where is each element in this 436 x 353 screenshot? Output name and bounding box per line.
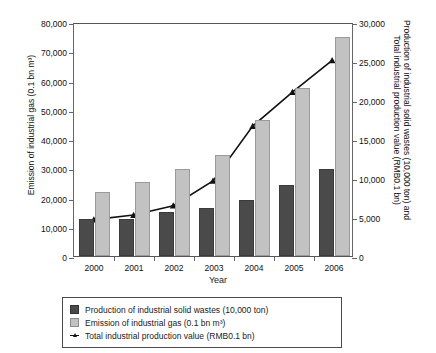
dark-square-swatch-icon (70, 305, 79, 314)
x-axis-tick-label: 2005 (285, 263, 304, 273)
bar-solid-wastes (199, 208, 214, 256)
y-axis-right-tick-label: 15,000 (359, 136, 385, 146)
x-axis-tick (274, 256, 275, 261)
y-axis-left-tick (69, 83, 74, 84)
y-axis-left-tick-label: 20,000 (41, 195, 67, 205)
bar-solid-wastes (79, 219, 94, 256)
y-axis-right-tick (352, 102, 357, 103)
y-axis-right-tick (352, 258, 357, 259)
bar-industrial-gas (95, 192, 110, 256)
y-axis-left-tick-label: 40,000 (41, 136, 67, 146)
bar-solid-wastes (239, 200, 254, 256)
x-axis-title: Year (0, 275, 436, 285)
x-axis-tick (234, 256, 235, 261)
legend-item: Emission of industrial gas (0.1 bn m³) (70, 316, 334, 329)
legend-item-label: Emission of industrial gas (0.1 bn m³) (85, 318, 225, 328)
chart-legend: Production of industrial solid wastes (1… (62, 297, 342, 348)
y-axis-right-tick (352, 219, 357, 220)
y-axis-left-tick-label: 80,000 (41, 19, 67, 29)
x-axis-tick-label: 2003 (205, 263, 224, 273)
legend-item-label: Production of industrial solid wastes (1… (85, 305, 268, 315)
x-axis-tick (194, 256, 195, 261)
y-axis-left-tick-label: 30,000 (41, 165, 67, 175)
bar-industrial-gas (135, 182, 150, 256)
bar-solid-wastes (119, 219, 134, 256)
y-axis-left-tick-label: 50,000 (41, 107, 67, 117)
legend-item: Total industrial production value (RMB0.… (70, 329, 334, 342)
y-axis-right-tick (352, 141, 357, 142)
x-axis-tick (114, 256, 115, 261)
y-axis-left-tick (69, 141, 74, 142)
bar-industrial-gas (215, 155, 230, 256)
y-axis-left-tick (69, 112, 74, 113)
y-axis-left-tick-label: 10,000 (41, 224, 67, 234)
bar-industrial-gas (295, 88, 310, 256)
y-axis-left-tick (69, 24, 74, 25)
bar-industrial-gas (175, 169, 190, 256)
y-axis-left-tick (69, 53, 74, 54)
y-axis-left-tick (69, 258, 74, 259)
y-axis-left-tick-label: 60,000 (41, 78, 67, 88)
x-axis-tick-label: 2006 (325, 263, 344, 273)
x-axis-tick (154, 256, 155, 261)
y-axis-left-title: Emission of industrial gas (0.1 bn m³) (26, 40, 36, 210)
y-axis-right-title: Production of industrial solid wastes (1… (392, 20, 412, 220)
y-axis-right-tick-label: 20,000 (359, 97, 385, 107)
bar-solid-wastes (159, 212, 174, 256)
x-axis-tick-label: 2002 (165, 263, 184, 273)
x-axis-tick (314, 256, 315, 261)
x-axis-tick-label: 2004 (245, 263, 264, 273)
y-axis-right-title-line2: Total industrial production value (RMB0.… (392, 20, 402, 220)
y-axis-right-title-line1: Production of industrial solid wastes (1… (402, 20, 412, 220)
y-axis-right-tick (352, 180, 357, 181)
legend-item-label: Total industrial production value (RMB0.… (85, 331, 255, 341)
line-marker-swatch-icon (70, 331, 79, 340)
legend-item: Production of industrial solid wastes (1… (70, 303, 334, 316)
y-axis-right-tick-label: 0 (359, 253, 364, 263)
y-axis-right-tick-label: 30,000 (359, 19, 385, 29)
y-axis-left-tick (69, 200, 74, 201)
bar-solid-wastes (319, 169, 334, 256)
y-axis-left-tick-label: 0 (62, 253, 67, 263)
y-axis-right-tick-label: 25,000 (359, 58, 385, 68)
y-axis-right-tick-label: 10,000 (359, 175, 385, 185)
chart-container: Emission of industrial gas (0.1 bn m³) P… (0, 0, 436, 353)
bar-industrial-gas (255, 120, 270, 256)
y-axis-left-tick (69, 229, 74, 230)
y-axis-right-tick (352, 24, 357, 25)
y-axis-left-tick (69, 170, 74, 171)
x-axis-tick-label: 2000 (85, 263, 104, 273)
y-axis-right-tick-label: 5,000 (359, 214, 380, 224)
bar-industrial-gas (335, 37, 350, 256)
x-axis-tick-label: 2001 (125, 263, 144, 273)
y-axis-left-tick-label: 70,000 (41, 48, 67, 58)
plot-area: 010,00020,00030,00040,00050,00060,00070,… (73, 23, 353, 257)
light-square-swatch-icon (70, 318, 79, 327)
bar-solid-wastes (279, 185, 294, 256)
y-axis-right-tick (352, 63, 357, 64)
